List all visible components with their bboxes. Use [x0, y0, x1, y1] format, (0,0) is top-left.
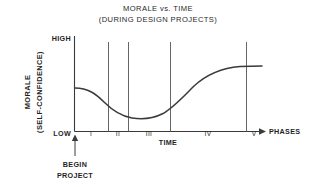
y-tick-high: HIGH [52, 34, 71, 43]
x-axis-label: TIME [159, 138, 177, 147]
y-axis-sublabel: (SELF-CONFIDENCE) [35, 51, 44, 133]
x-axis-end-label: PHASES [269, 127, 300, 136]
phase-label-4: IV [205, 130, 212, 137]
chart-svg: MORALE vs. TIME (DURING DESIGN PROJECTS)… [0, 0, 317, 187]
y-tick-low: LOW [53, 129, 71, 138]
y-axis-label: MORALE [23, 75, 32, 109]
morale-vs-time-chart: MORALE vs. TIME (DURING DESIGN PROJECTS)… [0, 0, 317, 187]
phase-label-3: III [146, 130, 152, 137]
phase-label-5: V [252, 130, 257, 137]
x-axis-arrowhead [259, 128, 266, 134]
chart-title: MORALE vs. TIME [123, 4, 193, 13]
morale-curve [75, 66, 262, 119]
begin-project-arrowhead [72, 135, 78, 142]
begin-annotation-line2: PROJECT [57, 171, 93, 180]
phase-label-1: I [90, 130, 92, 137]
phase-label-2: II [116, 130, 120, 137]
begin-annotation-line1: BEGIN [63, 160, 87, 169]
chart-subtitle: (DURING DESIGN PROJECTS) [99, 15, 218, 24]
